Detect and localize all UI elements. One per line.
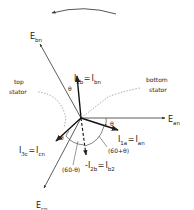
rotation-arrow-icon xyxy=(52,9,116,14)
label-i-2b: I2b=Ibn xyxy=(74,74,101,85)
label-e-bn: Ebn xyxy=(30,32,43,43)
angle-arc-theta-right xyxy=(105,118,106,126)
label-i-3c: I3c=Icn xyxy=(19,146,45,157)
phasor-diagram: Ebn I2b=Ibn Ean I1a=Ian I3c=Icn -I2b=Ib2… xyxy=(0,0,194,210)
label-i-1a: I1a=Ian xyxy=(118,135,145,146)
label-bottom-stator-1: bottom xyxy=(146,76,168,83)
top-stator-boundary xyxy=(38,92,66,128)
label-e-an: Ean xyxy=(168,115,180,126)
label-theta-left: θ xyxy=(60,134,64,141)
label-60-minus-theta: (60-θ) xyxy=(62,166,80,173)
angle-arc-60-plus xyxy=(85,126,104,146)
label-top-stator-1: top xyxy=(14,78,24,86)
leader-60-minus xyxy=(73,141,78,165)
leader-60-plus xyxy=(99,136,107,147)
label-e-cn: Ecn xyxy=(36,201,48,210)
label-60-plus-theta: (60+θ) xyxy=(108,147,129,154)
label-theta-right: θ xyxy=(110,120,114,127)
vector-neg-i-2b xyxy=(81,118,86,155)
label-bottom-stator-2: stator xyxy=(149,86,167,93)
label-top-stator-2: stator xyxy=(9,88,27,95)
label-neg-i-2b: -I2b=Ib2 xyxy=(85,161,115,172)
label-theta-top: θ xyxy=(68,85,72,92)
bottom-stator-boundary xyxy=(81,88,140,118)
